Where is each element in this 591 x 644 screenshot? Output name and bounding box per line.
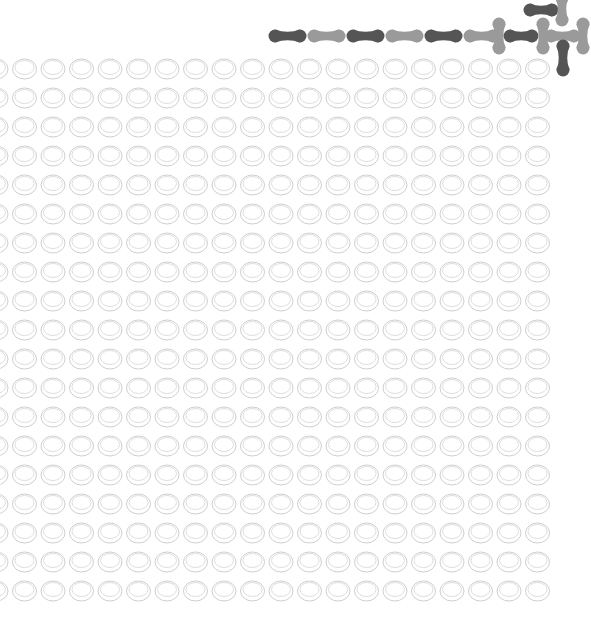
ring [526, 146, 550, 166]
ring [497, 581, 521, 601]
ring [127, 204, 151, 224]
ring [469, 465, 493, 485]
ring [326, 494, 350, 514]
ring [326, 349, 350, 369]
ring [383, 291, 407, 311]
ring [440, 523, 464, 543]
ring [13, 204, 37, 224]
ring [469, 175, 493, 195]
ring [155, 494, 179, 514]
ring [326, 59, 350, 79]
ring [98, 175, 122, 195]
ring [298, 552, 322, 572]
ring [0, 581, 8, 601]
ring [440, 378, 464, 398]
ring [0, 233, 8, 253]
ring [127, 465, 151, 485]
ring [298, 233, 322, 253]
ring [526, 88, 550, 108]
ring [41, 291, 65, 311]
ring [269, 291, 293, 311]
dumbbell-icon [269, 30, 307, 43]
ring [469, 88, 493, 108]
ring [127, 407, 151, 427]
ring [412, 291, 436, 311]
ring [355, 59, 379, 79]
ring [0, 494, 8, 514]
ring [241, 407, 265, 427]
ring [412, 320, 436, 340]
ring [13, 523, 37, 543]
ring [70, 407, 94, 427]
ring [469, 494, 493, 514]
ring [269, 204, 293, 224]
ring [70, 204, 94, 224]
ring [298, 262, 322, 282]
ring [241, 320, 265, 340]
ring [13, 233, 37, 253]
ring [0, 465, 8, 485]
ring [269, 552, 293, 572]
ring [355, 291, 379, 311]
ring [326, 117, 350, 137]
ring [41, 436, 65, 456]
ring [0, 349, 8, 369]
ring [155, 117, 179, 137]
ring [526, 494, 550, 514]
ring [526, 320, 550, 340]
ring [298, 88, 322, 108]
ring [383, 233, 407, 253]
ring [526, 523, 550, 543]
ring [184, 88, 208, 108]
ring [98, 320, 122, 340]
ring [98, 233, 122, 253]
ring [383, 494, 407, 514]
ring [497, 262, 521, 282]
ring [184, 262, 208, 282]
ring [13, 88, 37, 108]
ring [0, 117, 8, 137]
ring [526, 349, 550, 369]
ring [212, 378, 236, 398]
ring [212, 407, 236, 427]
ring [13, 349, 37, 369]
ring [241, 117, 265, 137]
ring [412, 552, 436, 572]
ring [184, 117, 208, 137]
ring [412, 88, 436, 108]
ring [184, 494, 208, 514]
ring [269, 523, 293, 543]
ring [0, 378, 8, 398]
ring [41, 494, 65, 514]
ring [98, 378, 122, 398]
ring [241, 262, 265, 282]
ring [241, 552, 265, 572]
ring [412, 204, 436, 224]
ring [355, 204, 379, 224]
ring [326, 146, 350, 166]
ring [326, 204, 350, 224]
ring [41, 349, 65, 369]
ring [184, 436, 208, 456]
ring [298, 494, 322, 514]
ring [98, 291, 122, 311]
ring [212, 175, 236, 195]
ring [298, 581, 322, 601]
ring [469, 204, 493, 224]
ring [184, 581, 208, 601]
ring [355, 88, 379, 108]
ring [469, 581, 493, 601]
ring [98, 146, 122, 166]
ring [269, 262, 293, 282]
ring [383, 175, 407, 195]
ring [355, 581, 379, 601]
ring [0, 552, 8, 572]
dumbbell-icon [524, 4, 559, 17]
ring [212, 291, 236, 311]
ring [70, 465, 94, 485]
ring [127, 552, 151, 572]
ring [526, 436, 550, 456]
dumbbell-icon [347, 30, 385, 43]
ring [298, 465, 322, 485]
ring [70, 117, 94, 137]
